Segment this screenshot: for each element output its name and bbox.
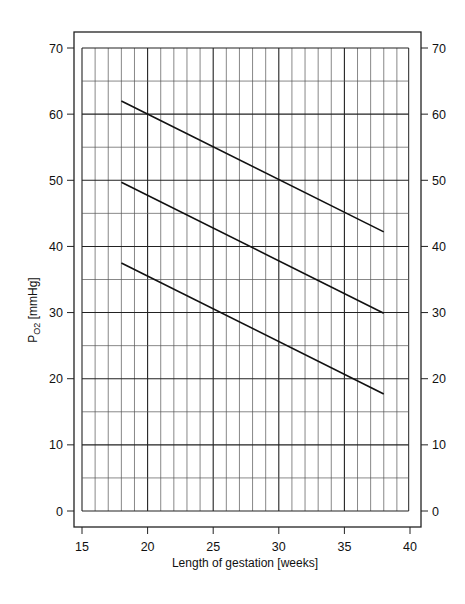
y-tick-label-right: 10 — [432, 438, 446, 452]
x-tick-label: 40 — [403, 540, 417, 554]
y-tick-label-right: 30 — [432, 306, 446, 320]
y-axis-left: 010203040506070 — [49, 42, 74, 519]
x-axis: 152025303540 — [75, 527, 417, 554]
y-tick-label-right: 40 — [432, 240, 446, 254]
x-tick-label: 20 — [141, 540, 155, 554]
y-axis-title: PO2 [mmHg] — [26, 277, 42, 342]
y-tick-label-right: 60 — [432, 108, 446, 122]
y-tick-label: 0 — [56, 505, 63, 519]
y-tick-label: 30 — [49, 306, 63, 320]
y-tick-label: 50 — [49, 174, 63, 188]
y-tick-label-right: 70 — [432, 42, 446, 56]
x-tick-label: 25 — [206, 540, 220, 554]
y-axis-right: 010203040506070 — [421, 42, 446, 519]
y-tick-label: 10 — [49, 438, 63, 452]
y-tick-label: 60 — [49, 108, 63, 122]
y-tick-label-right: 20 — [432, 372, 446, 386]
y-tick-label-right: 50 — [432, 174, 446, 188]
y-tick-label: 40 — [49, 240, 63, 254]
x-tick-label: 15 — [75, 540, 89, 554]
x-tick-label: 35 — [337, 540, 351, 554]
grid — [82, 48, 409, 511]
y-tick-label: 70 — [49, 42, 63, 56]
x-axis-title: Length of gestation [weeks] — [172, 556, 318, 570]
y-tick-label: 20 — [49, 372, 63, 386]
y-tick-label-right: 0 — [432, 505, 439, 519]
x-tick-label: 30 — [272, 540, 286, 554]
po2-gestation-chart: 010203040506070 010203040506070 15202530… — [0, 0, 465, 604]
